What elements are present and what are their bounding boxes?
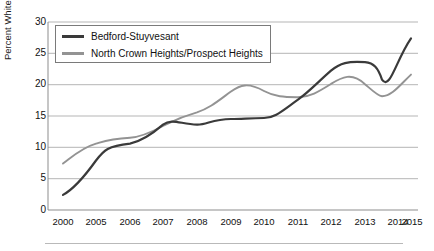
x-tick-2011: 2011	[281, 216, 315, 227]
x-tick-2015: 2015	[395, 216, 429, 227]
legend-entry-bedford-stuyvesant: Bedford-Stuyvesant	[62, 28, 179, 44]
y-tick-0: 0	[20, 205, 46, 215]
y-tick-5: 5	[20, 173, 46, 183]
y-axis-title: Percent White	[2, 46, 13, 60]
x-tick-2000: 2000	[46, 216, 80, 227]
legend-label-bedford-stuyvesant: Bedford-Stuyvesant	[91, 31, 179, 42]
x-tick-2005: 2005	[79, 216, 113, 227]
y-tick-25: 25	[20, 48, 46, 58]
y-tick-30: 30	[20, 17, 46, 27]
y-tick-10: 10	[20, 142, 46, 152]
legend-swatch-gray-icon	[62, 52, 84, 55]
legend-label-north-crown-heights-prospect-heights: North Crown Heights/Prospect Heights	[91, 48, 263, 59]
y-tick-20: 20	[20, 79, 46, 89]
legend-swatch-dark-icon	[62, 35, 84, 38]
y-axis-tick-labels: 30 25 20 15 10 5 0	[16, 0, 46, 251]
x-tick-2010: 2010	[247, 216, 281, 227]
x-tick-2006: 2006	[113, 216, 147, 227]
x-tick-2009: 2009	[214, 216, 248, 227]
line-chart: Percent White 30 25 20 15 10 5 0	[0, 0, 434, 251]
footer-divider	[45, 243, 403, 244]
x-tick-2013: 2013	[348, 216, 382, 227]
x-tick-2007: 2007	[146, 216, 180, 227]
y-tick-15: 15	[20, 111, 46, 121]
x-tick-2012: 2012	[314, 216, 348, 227]
legend-entry-north-crown-heights-prospect-heights: North Crown Heights/Prospect Heights	[62, 45, 263, 61]
x-tick-2008: 2008	[180, 216, 214, 227]
chart-legend: Bedford-Stuyvesant North Crown Heights/P…	[55, 25, 271, 63]
